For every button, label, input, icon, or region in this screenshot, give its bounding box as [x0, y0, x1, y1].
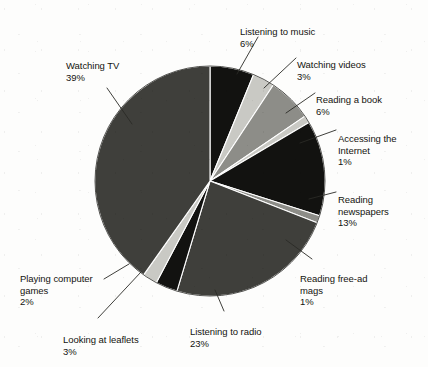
pie-label-value: 2%	[20, 296, 93, 307]
pie-label-text: Accessing the Internet	[338, 133, 397, 155]
pie-label-text: Watching TV	[66, 60, 119, 71]
pie-label-value: 23%	[190, 338, 261, 349]
pie-label-reading-free-ad-mags: Reading free-ad mags 1%	[300, 262, 367, 319]
pie-label-value: 1%	[338, 156, 397, 167]
pie-label-text: Reading free-ad mags	[300, 273, 367, 295]
pie-label-text: Listening to radio	[190, 326, 261, 337]
pie-label-text: Reading newspapers	[338, 194, 389, 216]
pie-label-accessing-the-internet: Accessing the Internet 1%	[338, 122, 397, 179]
pie-label-watching-tv: Watching TV 39%	[66, 49, 119, 95]
pie-label-value: 39%	[66, 72, 119, 83]
pie-label-text: Looking at leaflets	[63, 334, 139, 345]
pie-label-listening-to-radio: Listening to radio 23%	[190, 315, 261, 361]
pie-label-value: 6%	[316, 106, 382, 117]
pie-label-value: 13%	[338, 217, 389, 228]
pie-slice-group	[95, 66, 325, 296]
pie-label-text: Reading a book	[316, 94, 382, 105]
pie-chart-figure: Listening to music 6% Watching videos 3%…	[0, 0, 428, 367]
pie-label-value: 1%	[300, 296, 367, 307]
pie-label-looking-at-leaflets: Looking at leaflets 3%	[63, 323, 139, 367]
leader-line-playing-computer-games	[104, 264, 129, 279]
pie-label-value: 3%	[297, 71, 366, 82]
pie-label-text: Playing computer games	[20, 273, 93, 295]
pie-label-text: Listening to music	[240, 26, 315, 37]
pie-label-playing-computer-games: Playing computer games 2%	[20, 262, 93, 319]
pie-label-value: 3%	[63, 346, 139, 357]
leader-line-watching-videos	[264, 58, 296, 88]
pie-label-reading-newspapers: Reading newspapers 13%	[338, 183, 389, 240]
pie-label-text: Watching videos	[297, 59, 366, 70]
